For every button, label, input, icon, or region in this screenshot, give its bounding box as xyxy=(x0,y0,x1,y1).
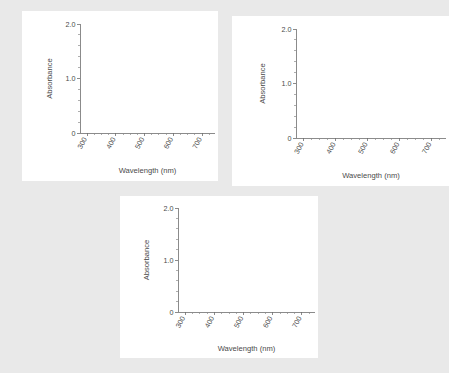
x-tick-label: 700 xyxy=(420,141,434,156)
plot-area-2: 01.02.0300400500600700Wavelength (nm)Abs… xyxy=(232,16,449,186)
y-tick-label: 1.0 xyxy=(282,79,292,88)
x-axis-ticks: 300400500600700 xyxy=(75,133,209,151)
chart-svg: 01.02.0300400500600700Wavelength (nm)Abs… xyxy=(232,16,449,186)
axis-lines xyxy=(80,24,215,133)
x-axis-title: Wavelength (nm) xyxy=(342,171,400,180)
x-axis-ticks: 300400500600700 xyxy=(292,138,439,156)
x-tick-label: 500 xyxy=(356,141,370,156)
chart-svg: 01.02.0300400500600700Wavelength (nm)Abs… xyxy=(22,11,218,181)
x-tick-label: 300 xyxy=(75,136,89,151)
y-tick-label: 0 xyxy=(72,129,76,138)
x-tick-label: 500 xyxy=(133,136,147,151)
plot-area-3: 01.02.0300400500600700Wavelength (nm)Abs… xyxy=(120,196,318,358)
x-axis-title: Wavelength (nm) xyxy=(218,344,276,353)
y-axis-ticks: 01.02.0 xyxy=(282,25,297,143)
y-tick-label: 2.0 xyxy=(282,25,292,34)
y-axis-ticks: 01.02.0 xyxy=(164,204,179,317)
y-tick-label: 2.0 xyxy=(164,204,174,213)
x-tick-label: 500 xyxy=(232,315,246,330)
x-tick-label: 400 xyxy=(203,315,217,330)
y-tick-label: 1.0 xyxy=(66,74,76,83)
y-tick-label: 1.0 xyxy=(164,256,174,265)
axis-lines xyxy=(178,208,315,312)
figure-panel-top-left: 01.02.0300400500600700Wavelength (nm)Abs… xyxy=(22,11,218,181)
y-tick-label: 0 xyxy=(170,308,174,317)
x-tick-label: 700 xyxy=(290,315,304,330)
y-tick-label: 0 xyxy=(288,134,292,143)
x-axis-title: Wavelength (nm) xyxy=(119,166,177,175)
page-background: 01.02.0300400500600700Wavelength (nm)Abs… xyxy=(0,0,449,373)
figure-panel-top-right: 01.02.0300400500600700Wavelength (nm)Abs… xyxy=(232,16,449,186)
x-tick-label: 300 xyxy=(173,315,187,330)
y-axis-ticks: 01.02.0 xyxy=(66,20,81,138)
y-axis-title: Absorbance xyxy=(258,63,267,104)
x-tick-label: 600 xyxy=(261,315,275,330)
axis-lines xyxy=(296,29,446,138)
x-tick-label: 600 xyxy=(162,136,176,151)
x-tick-label: 300 xyxy=(292,141,306,156)
chart-svg: 01.02.0300400500600700Wavelength (nm)Abs… xyxy=(120,196,318,358)
y-axis-title: Absorbance xyxy=(142,240,151,281)
x-tick-label: 700 xyxy=(190,136,204,151)
x-tick-label: 600 xyxy=(388,141,402,156)
x-tick-label: 400 xyxy=(104,136,118,151)
y-axis-title: Absorbance xyxy=(45,58,54,99)
plot-area-1: 01.02.0300400500600700Wavelength (nm)Abs… xyxy=(22,11,218,181)
y-tick-label: 2.0 xyxy=(66,20,76,29)
x-axis-ticks: 300400500600700 xyxy=(173,312,309,330)
figure-panel-bottom-center: 01.02.0300400500600700Wavelength (nm)Abs… xyxy=(120,196,318,358)
x-tick-label: 400 xyxy=(324,141,338,156)
